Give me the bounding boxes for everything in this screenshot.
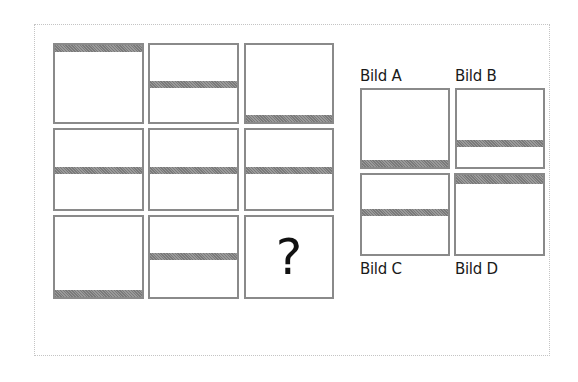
stripe-bottom: [362, 160, 448, 167]
matrix-cell-r3c2: [148, 215, 239, 299]
stripe-lower-middle: [457, 140, 543, 147]
question-mark: ?: [246, 217, 332, 297]
stripe-middle: [246, 167, 332, 174]
stripe-middle: [150, 167, 237, 174]
option-label-c: Bild C: [360, 261, 402, 277]
option-label-a: Bild A: [360, 68, 401, 84]
matrix-cell-r1c1: [53, 43, 144, 124]
matrix-cell-r2c3: [244, 128, 334, 211]
matrix-cell-r2c2: [148, 128, 239, 211]
stripe-top: [456, 175, 543, 184]
stripe-bottom: [246, 115, 332, 122]
option-bild-d[interactable]: [454, 173, 545, 256]
stripe-middle: [55, 167, 142, 174]
matrix-cell-r3c1: [53, 215, 144, 299]
stripe-upper-middle: [150, 253, 237, 260]
matrix-cell-r2c1: [53, 128, 144, 211]
option-label-d: Bild D: [455, 261, 498, 277]
matrix-cell-r1c2: [148, 43, 239, 124]
option-label-b: Bild B: [455, 68, 496, 84]
option-bild-b[interactable]: [455, 88, 545, 169]
stripe-upper-middle: [150, 81, 237, 88]
option-bild-a[interactable]: [360, 88, 450, 169]
option-bild-c[interactable]: [360, 173, 450, 256]
stripe-upper-middle: [362, 209, 448, 216]
matrix-cell-r1c3: [244, 43, 334, 124]
stripe-top: [55, 45, 142, 52]
matrix-cell-r3c3-missing: ?: [244, 215, 334, 299]
stripe-bottom: [55, 290, 142, 297]
